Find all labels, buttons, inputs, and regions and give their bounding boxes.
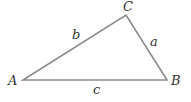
side-label-b: b (72, 27, 80, 42)
side-label-a: a (150, 34, 158, 49)
triangle-diagram: A B C a b c (0, 0, 191, 102)
vertex-label-a: A (7, 73, 17, 88)
vertex-label-c: C (123, 0, 133, 14)
side-label-c: c (93, 82, 101, 97)
vertex-label-b: B (170, 73, 181, 88)
triangle-abc (23, 15, 167, 80)
